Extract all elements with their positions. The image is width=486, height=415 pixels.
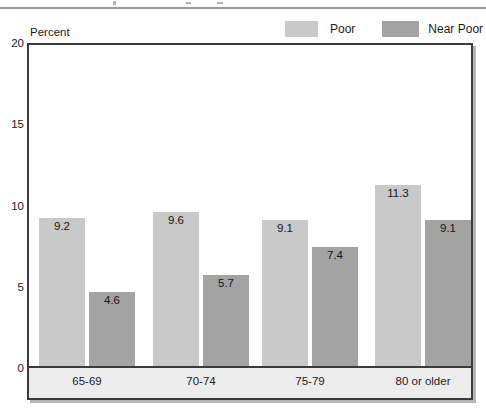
y-tick-label: 20 <box>0 36 24 50</box>
bar-chart-figure: Poor Near Poor Percent 05101520 9.24.69.… <box>0 0 486 415</box>
chart-frame: 9.24.69.65.79.17.411.39.1 65-6970-7475-7… <box>27 43 473 400</box>
x-category-label: 65-69 <box>39 375 135 387</box>
bar-poor: 9.1 <box>262 220 308 366</box>
bar-value-label: 9.2 <box>39 218 85 232</box>
bar-value-label: 9.1 <box>262 220 308 234</box>
bar-near-poor: 5.7 <box>203 275 249 367</box>
legend-swatch-poor <box>285 21 318 37</box>
y-tick-label: 10 <box>0 199 24 213</box>
bar-near-poor: 4.6 <box>89 292 135 366</box>
cutoff-title-fragment <box>217 2 223 4</box>
cutoff-title-fragment <box>113 1 116 5</box>
y-tick-label: 15 <box>0 117 24 131</box>
bar-value-label: 5.7 <box>203 275 249 289</box>
bar-value-label: 4.6 <box>89 292 135 306</box>
x-category-label: 75-79 <box>262 375 358 387</box>
bar-poor: 11.3 <box>375 185 421 366</box>
y-tick-label: 0 <box>0 361 24 375</box>
bar-near-poor: 9.1 <box>425 220 471 366</box>
x-axis-category-band: 65-6970-7475-7980 or older <box>29 368 471 398</box>
legend-swatch-near-poor <box>382 21 419 37</box>
bar-poor: 9.6 <box>153 212 199 366</box>
y-axis-title: Percent <box>30 26 70 38</box>
bar-value-label: 9.6 <box>153 212 199 226</box>
plot-area: 9.24.69.65.79.17.411.39.1 <box>29 45 471 368</box>
legend-label-poor: Poor <box>330 22 355 36</box>
bar-poor: 9.2 <box>39 218 85 366</box>
bar-value-label: 7.4 <box>312 247 358 261</box>
x-category-label: 80 or older <box>375 375 471 387</box>
bar-value-label: 9.1 <box>425 220 471 234</box>
cutoff-title-fragment <box>186 2 191 4</box>
top-rule <box>0 7 486 9</box>
x-category-label: 70-74 <box>153 375 249 387</box>
bar-value-label: 11.3 <box>375 185 421 199</box>
legend: Poor Near Poor <box>285 20 483 38</box>
bar-near-poor: 7.4 <box>312 247 358 366</box>
legend-label-near-poor: Near Poor <box>428 22 483 36</box>
y-tick-label: 5 <box>0 280 24 294</box>
